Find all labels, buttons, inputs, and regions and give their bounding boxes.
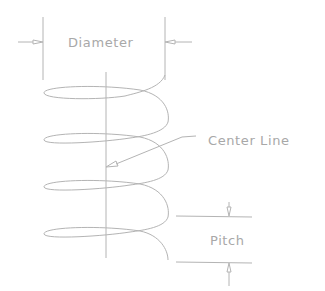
pitch-arrow-top-icon bbox=[227, 202, 231, 216]
pitch-extension-bottom bbox=[176, 262, 252, 263]
pitch-label: Pitch bbox=[210, 233, 245, 248]
diameter-arrow-left-icon bbox=[18, 40, 43, 44]
pitch-extension-top bbox=[176, 216, 252, 217]
center-line-label: Center Line bbox=[208, 133, 290, 148]
diameter-label: Diameter bbox=[68, 35, 134, 50]
helix-diagram: Diameter Center Line Pitch bbox=[0, 0, 325, 291]
diagram-svg: Diameter Center Line Pitch bbox=[0, 0, 325, 291]
pitch-arrow-bottom-icon bbox=[227, 263, 231, 286]
diameter-arrow-right-icon bbox=[165, 40, 192, 44]
